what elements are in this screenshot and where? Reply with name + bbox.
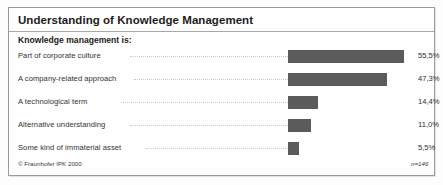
category-label: Some kind of immaterial asset bbox=[18, 143, 121, 152]
bar-track bbox=[288, 73, 413, 86]
leader-line bbox=[130, 56, 288, 58]
value-label: 5,5% bbox=[418, 143, 435, 152]
value-label: 11,0% bbox=[418, 120, 439, 129]
bar bbox=[288, 73, 387, 86]
leader-line bbox=[146, 148, 288, 150]
sample-size-label: n=146 bbox=[411, 160, 428, 167]
value-label: 14,4% bbox=[418, 97, 440, 106]
bar-row: Alternative understanding11,0% bbox=[9, 119, 434, 142]
category-label: A company-related approach bbox=[18, 74, 116, 83]
page-title: Understanding of Knowledge Management bbox=[18, 14, 253, 26]
bar bbox=[288, 142, 299, 155]
title-divider bbox=[9, 31, 434, 32]
bar bbox=[288, 96, 318, 109]
page-background: Understanding of Knowledge Management Kn… bbox=[0, 0, 443, 185]
bar bbox=[288, 50, 404, 63]
bar-row: A company-related approach47,3% bbox=[9, 73, 434, 96]
bar-row: Part of corporate culture55,5% bbox=[9, 50, 434, 73]
category-label: Part of corporate culture bbox=[18, 51, 101, 60]
bar-track bbox=[288, 119, 413, 132]
bar-chart-plot: Part of corporate culture55,5%A company-… bbox=[9, 50, 434, 175]
bar-track bbox=[288, 50, 413, 63]
bar-track bbox=[288, 142, 413, 155]
category-label: A technological term bbox=[18, 97, 87, 106]
value-label: 55,5% bbox=[418, 51, 440, 60]
leader-line bbox=[130, 125, 288, 127]
chart-subtitle: Knowledge management is: bbox=[18, 35, 132, 45]
chart-frame: Understanding of Knowledge Management Kn… bbox=[8, 7, 435, 176]
bar-row: A technological term14,4% bbox=[9, 96, 434, 119]
leader-line bbox=[134, 79, 288, 81]
value-label: 47,3% bbox=[418, 74, 440, 83]
bar-track bbox=[288, 96, 413, 109]
bar bbox=[288, 119, 311, 132]
copyright-text: © Fraunhofer IPK 2000 bbox=[18, 160, 82, 167]
leader-line bbox=[121, 102, 288, 104]
copyright-notice: © Fraunhofer IPK 2000 bbox=[18, 160, 82, 167]
category-label: Alternative understanding bbox=[18, 120, 105, 129]
